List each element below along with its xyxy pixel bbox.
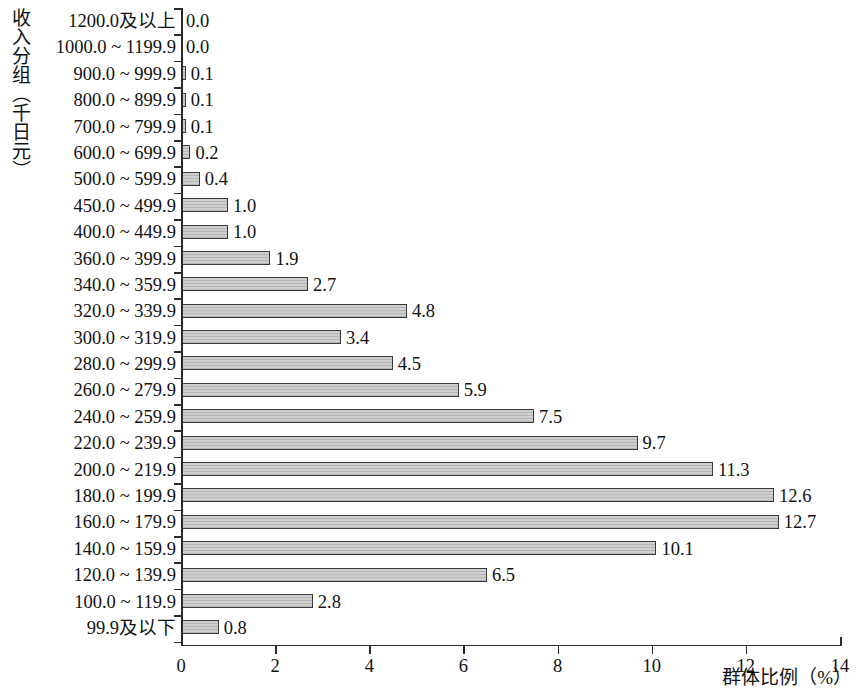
bar-value-label: 1.0 [228,193,256,219]
bar-row: 450.0 ~ 499.91.0 [0,193,860,219]
category-label: 400.0 ~ 449.9 [73,219,181,245]
x-axis-tick-label: 8 [553,655,562,677]
bar-value-label: 0.1 [186,61,214,87]
bar-value-label: 11.3 [713,457,750,483]
category-label: 450.0 ~ 499.9 [73,193,181,219]
category-label: 140.0 ~ 159.9 [73,536,181,562]
bar-track: 4.8 [181,298,860,324]
bar-value-label: 0.4 [200,166,228,192]
bar [181,541,656,555]
plot-area: 1200.0及以上0.01000.0 ~ 1199.90.0900.0 ~ 99… [0,0,860,693]
bar-value-label: 2.8 [313,589,341,615]
x-axis-tick [652,646,654,654]
bar-row: 1000.0 ~ 1199.90.0 [0,34,860,60]
bar-track: 5.9 [181,377,860,403]
x-axis-tick-label: 4 [365,655,374,677]
bar [181,172,200,186]
bar-value-label: 2.7 [308,272,336,298]
bar-value-label: 0.2 [190,140,218,166]
category-label: 240.0 ~ 259.9 [73,404,181,430]
bar-track: 9.7 [181,430,860,456]
bar-track: 4.5 [181,351,860,377]
x-axis-title: 群体比例（%） [722,666,852,690]
bar-row: 280.0 ~ 299.94.5 [0,351,860,377]
bar-row: 500.0 ~ 599.90.4 [0,166,860,192]
bar [181,436,638,450]
bar-track: 1.0 [181,219,860,245]
category-label: 120.0 ~ 139.9 [73,562,181,588]
y-axis-tick [174,351,181,353]
bar-value-label: 0.0 [181,8,209,34]
y-axis-tick [174,483,181,485]
y-axis-tick [174,140,181,142]
y-axis-tick [174,272,181,274]
bar-value-label: 9.7 [638,430,666,456]
bar-row: 300.0 ~ 319.93.4 [0,325,860,351]
bar-row: 600.0 ~ 699.90.2 [0,140,860,166]
x-axis-end-cap [840,637,842,646]
bar [181,594,313,608]
bar-track: 2.8 [181,589,860,615]
category-label: 99.9及以下 [87,615,181,641]
y-axis-tick [174,510,181,512]
bar-value-label: 5.9 [459,377,487,403]
bar-track: 0.4 [181,166,860,192]
bar-track: 10.1 [181,536,860,562]
category-label: 100.0 ~ 119.9 [74,589,181,615]
bar-track: 0.1 [181,61,860,87]
bar-row: 99.9及以下0.8 [0,615,860,641]
bar [181,568,487,582]
bar-row: 1200.0及以上0.0 [0,8,860,34]
bar-track: 6.5 [181,562,860,588]
bar [181,515,779,529]
y-axis-tick [174,8,181,10]
bar-row: 340.0 ~ 359.92.7 [0,272,860,298]
x-axis-tick [369,646,371,654]
bar-track: 12.7 [181,509,860,535]
y-axis-tick [174,615,181,617]
bar-rows: 1200.0及以上0.01000.0 ~ 1199.90.0900.0 ~ 99… [0,8,860,641]
y-axis-tick [174,114,181,116]
bar-value-label: 3.4 [341,325,369,351]
bar-value-label: 0.0 [181,34,209,60]
bar-value-label: 6.5 [487,562,515,588]
bar-track: 1.9 [181,246,860,272]
bar-row: 800.0 ~ 899.90.1 [0,87,860,113]
bar-track: 0.1 [181,87,860,113]
y-axis-tick [174,457,181,459]
category-label: 360.0 ~ 399.9 [73,246,181,272]
bar-row: 700.0 ~ 799.90.1 [0,114,860,140]
x-axis-line [181,645,840,647]
bar [181,356,393,370]
bar-track: 11.3 [181,457,860,483]
bar-value-label: 12.7 [779,509,816,535]
category-label: 180.0 ~ 199.9 [73,483,181,509]
category-label: 900.0 ~ 999.9 [73,61,181,87]
bar-value-label: 12.6 [774,483,811,509]
x-axis-tick [275,646,277,654]
category-label: 320.0 ~ 339.9 [73,298,181,324]
bar-row: 200.0 ~ 219.911.3 [0,457,860,483]
bar [181,620,219,634]
bar [181,409,534,423]
y-axis-tick [174,219,181,221]
x-axis-tick [746,646,748,654]
bar-track: 0.8 [181,615,860,641]
category-label: 200.0 ~ 219.9 [73,457,181,483]
bar-row: 140.0 ~ 159.910.1 [0,536,860,562]
x-axis-tick [558,646,560,654]
bar-row: 400.0 ~ 449.91.0 [0,219,860,245]
bar-track: 0.0 [181,8,860,34]
category-label: 340.0 ~ 359.9 [73,272,181,298]
bar-row: 320.0 ~ 339.94.8 [0,298,860,324]
bar-track: 0.2 [181,140,860,166]
bar-row: 100.0 ~ 119.92.8 [0,589,860,615]
category-label: 220.0 ~ 239.9 [73,430,181,456]
bar-row: 120.0 ~ 139.96.5 [0,562,860,588]
bar-value-label: 4.8 [407,298,435,324]
bar-row: 260.0 ~ 279.95.9 [0,377,860,403]
y-axis-tick [174,61,181,63]
category-label: 1200.0及以上 [68,8,181,34]
y-axis-tick [174,193,181,195]
category-label: 300.0 ~ 319.9 [73,325,181,351]
